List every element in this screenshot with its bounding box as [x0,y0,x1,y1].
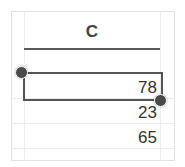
selection-rectangle [23,72,163,101]
column-header-c[interactable]: C [24,18,160,46]
selection-handle-bottom-right[interactable] [154,94,167,107]
cell[interactable]: 23 [24,101,157,125]
selection-handle-top-left[interactable] [15,66,28,79]
header-underline [24,48,160,50]
cell[interactable]: 65 [24,126,157,150]
